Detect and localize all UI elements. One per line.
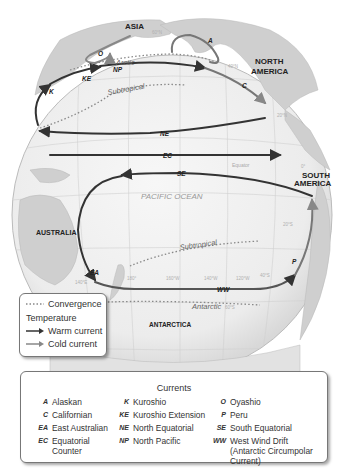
svg-text:Arctic: Arctic [115,58,135,67]
currents-key-item: WWWest Wind Drift (Antarctic Circumpolar… [213,436,322,466]
label-antarctica: ANTARCTICA [149,321,191,328]
svg-text:140°E: 140°E [75,280,87,285]
svg-text:140°W: 140°W [204,276,218,281]
map-legend: Convergence Temperature Warm current Col… [19,293,107,357]
currents-key-item: OOyashio [213,397,261,407]
legend-cold: Cold current [26,339,97,349]
svg-text:NE: NE [160,130,170,137]
dotted-line-icon [26,302,44,306]
currents-key-title: Currents [21,383,327,393]
label-north-america-2: AMERICA [251,67,289,76]
cold-arrow-icon [26,341,44,347]
svg-text:KE: KE [82,75,92,82]
svg-text:P: P [292,258,297,265]
currents-key-item: KKuroshio [116,397,166,407]
legend-warm: Warm current [26,326,102,336]
svg-text:SE: SE [177,170,186,177]
label-equator: Equator [232,162,250,168]
legend-warm-label: Warm current [48,326,102,336]
currents-key: Currents AAlaskan CCalifornian EAEast Au… [20,371,328,463]
svg-text:160°W: 160°W [166,276,180,281]
svg-text:60°N: 60°N [152,30,162,35]
currents-key-item: EAEast Australian [35,423,108,433]
currents-key-item: NPNorth Pacific [116,436,180,446]
label-pacific-ocean: PACIFIC OCEAN [141,192,203,201]
currents-key-item: ECEquatorial Counter [35,436,105,456]
legend-convergence-label: Convergence [48,299,102,309]
svg-text:A: A [207,37,213,44]
svg-text:EA: EA [90,269,99,276]
svg-text:20°S: 20°S [283,222,293,227]
svg-text:K: K [49,88,55,95]
svg-text:120°W: 120°W [236,276,250,281]
svg-text:Antarctic: Antarctic [191,302,221,311]
svg-text:NP: NP [113,66,123,73]
svg-text:WW: WW [217,286,230,293]
legend-temperature-heading: Temperature [26,313,77,323]
label-asia: ASIA [125,22,144,31]
svg-text:0°: 0° [301,164,306,169]
svg-text:180°: 180° [127,276,137,281]
warm-arrow-icon [26,328,44,334]
svg-text:EC: EC [163,152,172,159]
svg-text:20°N: 20°N [277,113,287,118]
currents-key-item: PPeru [213,410,248,420]
label-north-america: NORTH [255,57,284,66]
svg-text:60°S: 60°S [225,305,235,310]
currents-key-item: CCalifornian [35,410,92,420]
label-south-america-2: AMERICA [294,179,332,188]
currents-key-item: NENorth Equatorial [116,423,194,433]
currents-key-item: SESouth Equatorial [213,423,292,433]
currents-key-item: KEKuroshio Extension [116,410,205,420]
svg-text:40°S: 40°S [260,273,270,278]
svg-text:40°N: 40°N [228,64,238,69]
label-australia: AUSTRALIA [36,229,76,236]
legend-cold-label: Cold current [48,339,97,349]
legend-convergence: Convergence [26,299,102,309]
svg-text:O: O [98,50,103,57]
currents-key-item: AAlaskan [35,397,82,407]
svg-text:C: C [242,82,247,89]
